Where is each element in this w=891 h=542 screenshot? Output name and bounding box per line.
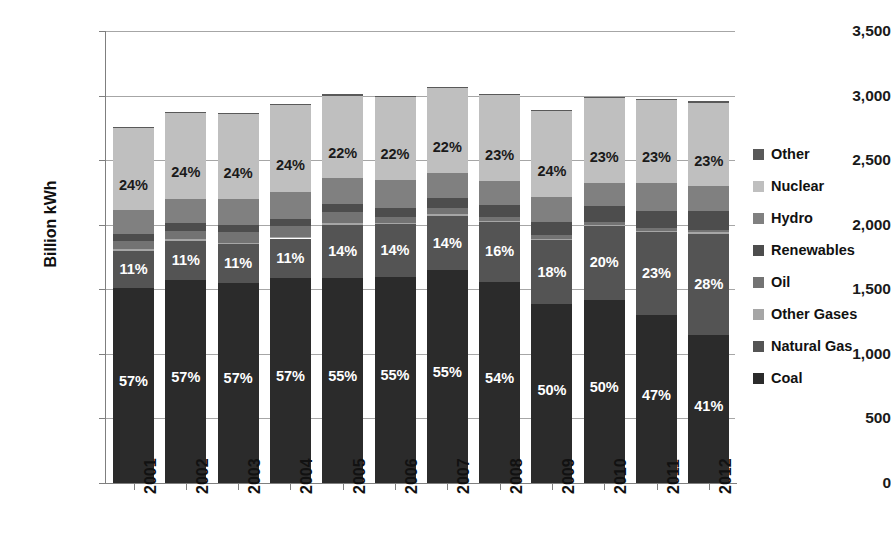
segment-other: [218, 113, 259, 114]
segment-other: [322, 94, 363, 95]
bar-2002[interactable]: 57%11%24%: [165, 112, 206, 483]
segment-natural-gas: [531, 240, 572, 304]
legend-swatch-icon: [753, 309, 764, 320]
segment-nuclear: [270, 105, 311, 191]
segment-other: [584, 97, 625, 98]
segment-oil: [584, 222, 625, 225]
stacked-bar-chart: Billion kWh 05001,0001,5002,0002,5003,00…: [0, 0, 891, 542]
x-axis-tick-mark: [343, 483, 344, 490]
bar-2009[interactable]: 50%18%24%: [531, 110, 572, 483]
legend-item-renewables[interactable]: Renewables: [753, 234, 891, 266]
segment-other-gases: [427, 214, 468, 216]
segment-oil: [218, 232, 259, 243]
segment-natural-gas: [322, 225, 363, 277]
segment-hydro: [688, 186, 729, 211]
x-axis-label-2012: 2012: [717, 458, 735, 494]
bar-2001[interactable]: 57%11%24%: [113, 127, 154, 483]
segment-renewables: [688, 211, 729, 231]
segment-coal: [322, 278, 363, 483]
segment-hydro: [531, 197, 572, 222]
legend-item-nuclear[interactable]: Nuclear: [753, 170, 891, 202]
segment-natural-gas: [218, 244, 259, 283]
segment-coal: [531, 304, 572, 483]
segment-hydro: [427, 173, 468, 198]
segment-oil: [531, 235, 572, 239]
segment-nuclear: [113, 128, 154, 210]
legend-item-other-gases[interactable]: Other Gases: [753, 298, 891, 330]
segment-hydro: [636, 183, 677, 212]
x-axis-label-2007: 2007: [455, 458, 473, 494]
segment-coal: [218, 283, 259, 483]
segment-other: [636, 99, 677, 100]
legend-swatch-icon: [753, 245, 764, 256]
y-axis-tick-label: 500: [825, 409, 891, 427]
bar-2007[interactable]: 55%14%22%: [427, 87, 468, 483]
segment-nuclear: [636, 100, 677, 182]
legend-item-coal[interactable]: Coal: [753, 362, 891, 394]
legend-label: Natural Gas: [771, 338, 852, 354]
bar-2010[interactable]: 50%20%23%: [584, 97, 625, 483]
segment-oil: [636, 228, 677, 231]
segment-other: [688, 101, 729, 102]
x-axis-tick-mark: [709, 483, 710, 490]
segment-renewables: [113, 234, 154, 241]
segment-natural-gas: [113, 251, 154, 289]
bar-2005[interactable]: 55%14%22%: [322, 94, 363, 483]
bar-2006[interactable]: 55%14%22%: [375, 96, 416, 483]
segment-oil: [427, 208, 468, 214]
segment-nuclear: [688, 103, 729, 186]
bar-2011[interactable]: 47%23%23%: [636, 99, 677, 483]
legend-item-oil[interactable]: Oil: [753, 266, 891, 298]
x-axis-label-2002: 2002: [194, 458, 212, 494]
segment-hydro: [113, 210, 154, 234]
segment-coal: [113, 288, 154, 483]
segment-other-gases: [375, 223, 416, 225]
bar-2004[interactable]: 57%11%24%: [270, 104, 311, 483]
x-axis-tick-mark: [500, 483, 501, 490]
x-axis-label-2001: 2001: [142, 458, 160, 494]
x-axis-label-2009: 2009: [560, 458, 578, 494]
segment-natural-gas: [270, 239, 311, 279]
x-axis-label-2003: 2003: [246, 458, 264, 494]
segment-hydro: [479, 181, 520, 205]
segment-coal: [479, 282, 520, 483]
x-axis-tick-mark: [447, 483, 448, 490]
segment-renewables: [322, 204, 363, 212]
bar-2008[interactable]: 54%16%23%: [479, 94, 520, 483]
segment-nuclear: [375, 97, 416, 179]
segment-other-gases: [584, 225, 625, 226]
x-axis-tick-mark: [657, 483, 658, 490]
segment-coal: [427, 270, 468, 483]
legend-swatch-icon: [753, 341, 764, 352]
legend-item-natural-gas[interactable]: Natural Gas: [753, 330, 891, 362]
legend-label: Renewables: [771, 242, 855, 258]
segment-natural-gas: [165, 241, 206, 280]
legend-item-hydro[interactable]: Hydro: [753, 202, 891, 234]
legend-swatch-icon: [753, 213, 764, 224]
segment-natural-gas: [636, 232, 677, 314]
legend-item-other[interactable]: Other: [753, 138, 891, 170]
chart-legend: OtherNuclearHydroRenewablesOilOther Gase…: [753, 138, 891, 394]
segment-other: [531, 110, 572, 111]
y-axis-tick-label: 3,500: [825, 22, 891, 40]
segment-other: [427, 87, 468, 89]
segment-coal: [270, 278, 311, 483]
legend-label: Hydro: [771, 210, 813, 226]
segment-hydro: [375, 180, 416, 208]
segment-natural-gas: [427, 216, 468, 270]
segment-other-gases: [218, 243, 259, 245]
bar-2003[interactable]: 57%11%24%: [218, 113, 259, 483]
segment-hydro: [322, 178, 363, 204]
bar-2012[interactable]: 41%28%23%: [688, 101, 729, 483]
plot-area: 57%11%24%57%11%24%57%11%24%57%11%24%55%1…: [105, 31, 735, 483]
segment-other: [270, 104, 311, 105]
segment-hydro: [218, 199, 259, 225]
x-axis-tick-mark: [238, 483, 239, 490]
segment-renewables: [584, 206, 625, 221]
segment-oil: [688, 230, 729, 232]
legend-swatch-icon: [753, 373, 764, 384]
x-axis-label-2004: 2004: [298, 458, 316, 494]
segment-renewables: [375, 208, 416, 217]
segment-nuclear: [427, 88, 468, 173]
segment-hydro: [584, 183, 625, 207]
